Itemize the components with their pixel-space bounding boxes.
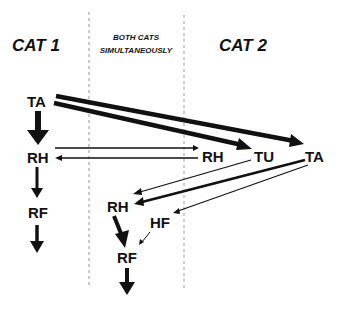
node-cat2-ta: TA — [305, 149, 324, 164]
arrowhead-icon — [119, 282, 135, 295]
node-both-rf: RF — [117, 250, 137, 265]
arrowhead-icon — [134, 197, 144, 206]
node-cat2-rh: RH — [202, 149, 224, 164]
node-cat1-ta: TA — [27, 94, 46, 109]
column-header-cat1: CAT 1 — [12, 37, 60, 54]
column-header-cat2: CAT 2 — [219, 37, 267, 54]
node-both-hf: HF — [150, 215, 170, 230]
column-header-both-line1: BOTH CATS — [88, 34, 184, 42]
node-cat1-rh: RH — [27, 150, 49, 165]
arrowhead-icon — [289, 134, 304, 147]
arrowhead-icon — [133, 188, 142, 195]
node-both-rh: RH — [107, 199, 129, 214]
edge-ta-ta — [56, 96, 294, 141]
arrowhead-icon — [115, 230, 129, 248]
edge-hf-rf — [142, 232, 150, 242]
arrowhead-icon — [30, 241, 44, 253]
node-cat2-tu: TU — [254, 149, 274, 164]
diagram: CAT 1 BOTH CATS SIMULTANEOUSLY CAT 2 TA … — [0, 0, 340, 309]
arrowhead-icon — [173, 208, 180, 214]
edge-ta-rh — [142, 160, 305, 202]
column-header-both-line2: SIMULTANEOUSLY — [88, 47, 184, 55]
arrowhead-icon — [27, 130, 49, 145]
arrowhead-icon — [55, 155, 62, 161]
arrowhead-icon — [193, 145, 199, 151]
arrowhead-icon — [31, 188, 43, 198]
arrowhead-icon — [236, 138, 252, 150]
node-cat1-rf: RF — [28, 205, 48, 220]
